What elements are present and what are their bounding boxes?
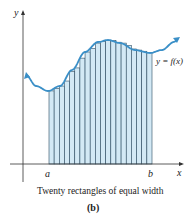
y-axis-label: y [13, 7, 19, 18]
y-axis-arrow-icon [21, 10, 25, 15]
riemann-rectangle [90, 48, 95, 164]
riemann-rectangle [75, 68, 80, 164]
riemann-rectangle [54, 88, 59, 164]
riemann-sum-figure: y x a b y = f(x) Twenty rectangles of eq… [0, 0, 191, 214]
riemann-rectangle [131, 49, 136, 164]
riemann-rectangle [126, 46, 131, 164]
riemann-rectangle [101, 42, 106, 164]
riemann-rectangle [70, 72, 75, 164]
riemann-rectangle [111, 40, 116, 164]
figure-caption: Twenty rectangles of equal width [37, 186, 164, 196]
riemann-rectangle [147, 53, 152, 164]
curve-label: y = f(x) [155, 56, 183, 66]
riemann-rectangle [95, 43, 100, 164]
interval-start-label: a [45, 168, 50, 179]
rectangles-group [49, 40, 152, 164]
riemann-rectangle [85, 52, 90, 164]
riemann-rectangle [121, 43, 126, 164]
riemann-rectangle [142, 51, 147, 164]
x-axis-arrow-icon [179, 162, 184, 166]
x-axis-label: x [176, 167, 182, 178]
riemann-rectangle [59, 86, 64, 164]
riemann-rectangle [106, 40, 111, 164]
interval-end-label: b [148, 168, 153, 179]
riemann-rectangle [116, 42, 121, 164]
riemann-rectangle [137, 50, 142, 164]
riemann-rectangle [80, 58, 85, 164]
figure-sublabel: (b) [87, 202, 99, 214]
riemann-rectangle [49, 91, 54, 164]
riemann-rectangle [64, 81, 69, 164]
